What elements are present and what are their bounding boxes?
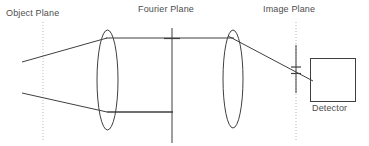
optics-canvas xyxy=(0,0,369,146)
detector-box xyxy=(311,59,356,102)
image-plane-label: Image Plane xyxy=(263,4,315,15)
detector-label: Detector xyxy=(312,103,347,114)
fourier-plane-label: Fourier Plane xyxy=(138,4,194,15)
ray-output-to-detector xyxy=(228,36,313,81)
ray-upper-input xyxy=(22,38,107,62)
object-plane-label: Object Plane xyxy=(6,8,59,19)
optics-diagram: Object Plane Fourier Plane Image Plane D… xyxy=(0,0,369,146)
lens-two xyxy=(223,30,243,128)
ray-lower-input xyxy=(22,93,107,112)
lens-one xyxy=(97,30,118,130)
